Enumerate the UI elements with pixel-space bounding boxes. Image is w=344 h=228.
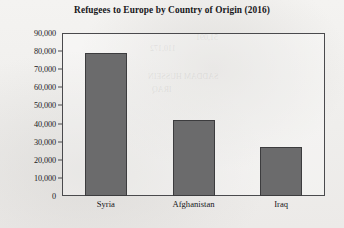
bar-syria (85, 53, 127, 196)
y-axis-tick-label: 20,000 (34, 155, 56, 164)
bar-chart-figure: 110,172 51,091 SADDAM HUSSEIN IRAQ Refug… (0, 0, 344, 228)
chart-title: Refugees to Europe by Country of Origin … (0, 5, 344, 15)
y-axis-tick-label: 70,000 (34, 65, 56, 74)
y-axis-tick-label: 40,000 (34, 119, 56, 128)
x-axis-tick-label: Afghanistan (172, 199, 214, 209)
bars-layer (62, 33, 325, 196)
y-axis-tick-label: 90,000 (34, 29, 56, 38)
y-axis-tick-label: 0 (52, 192, 56, 201)
y-axis-tick-label: 30,000 (34, 137, 56, 146)
bar-afghanistan (173, 120, 215, 196)
y-axis-tick-label: 80,000 (34, 47, 56, 56)
y-axis-tick-label: 50,000 (34, 101, 56, 110)
y-axis-labels: 90,00080,00070,00060,00050,00040,00030,0… (0, 33, 56, 196)
y-axis-tick-label: 60,000 (34, 83, 56, 92)
x-axis-labels: SyriaAfghanistanIraq (62, 199, 325, 217)
x-axis-tick-label: Syria (97, 199, 115, 209)
y-axis-tick-label: 10,000 (34, 173, 56, 182)
x-axis-tick-label: Iraq (274, 199, 288, 209)
bar-iraq (260, 147, 302, 196)
